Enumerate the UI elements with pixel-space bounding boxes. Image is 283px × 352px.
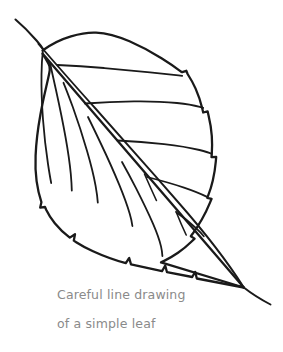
caption-line-one: Careful line drawing — [57, 289, 257, 302]
drawing-page: Careful line drawing of a simple leaf — [0, 0, 283, 352]
caption: Careful line drawing of a simple leaf — [57, 289, 257, 330]
caption-line-two: of a simple leaf — [57, 318, 257, 331]
